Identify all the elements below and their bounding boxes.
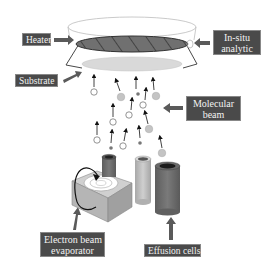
effusion-cells-label: Effusion cells [144,244,201,257]
molecular-label-line1: Molecular [190,98,237,109]
molecular-arrow-icon [163,103,183,113]
heater-arrow-icon [54,35,74,45]
insitu-arrow-icon [194,38,210,48]
insitu-analytic-label: In-situ analytic [213,30,261,55]
molecular-label-line2: beam [190,109,237,120]
effusion-cell-middle [135,156,151,205]
molecular-beam-label: Molecular beam [186,96,241,121]
substrate-plate [82,57,182,71]
ebeam-arrow-icon [73,207,81,230]
substrate-arrow-icon [63,71,82,83]
molecular-particles [91,89,166,157]
insitu-label-line1: In-situ [217,32,257,43]
heater-plate [76,36,188,52]
insitu-label-line2: analytic [217,43,257,54]
effusion-arrow-icon [166,217,176,240]
ebeam-label-line1: Electron beam [44,234,101,245]
effusion-label-text: Effusion cells [148,246,200,256]
substrate-label: Substrate [15,74,58,87]
effusion-cell-front [155,162,180,216]
heater-label-text: Heater [26,35,51,45]
heater-label: Heater [22,33,51,46]
substrate-label-text: Substrate [19,76,54,86]
ebeam-label-line2: evaporator [44,245,101,256]
electron-beam-evaporator-label: Electron beam evaporator [40,232,105,257]
effusion-cell-back [102,154,116,177]
